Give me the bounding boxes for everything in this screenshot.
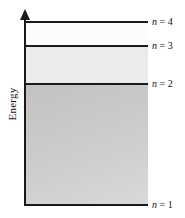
- level-label-n4: n = 4: [152, 17, 173, 27]
- band-n2-n1: [26, 85, 148, 205]
- axis-arrow-icon: [20, 9, 30, 20]
- level-line-n3: [25, 45, 148, 47]
- level-label-n2: n = 2: [152, 79, 173, 89]
- level-line-n4: [25, 21, 148, 23]
- energy-axis-label: Energy: [6, 74, 18, 134]
- level-value-n3: 3: [168, 40, 173, 51]
- level-equals-n3: =: [160, 40, 166, 51]
- level-symbol-n3: n: [152, 40, 157, 51]
- level-value-n4: 4: [168, 16, 173, 27]
- level-line-n1: [25, 204, 148, 206]
- energy-level-diagram: Energy n = 4 n = 3 n = 2 n = 1: [0, 0, 185, 218]
- level-equals-n1: =: [160, 199, 166, 210]
- level-label-n1: n = 1: [152, 200, 173, 210]
- level-equals-n4: =: [160, 16, 166, 27]
- level-value-n2: 2: [168, 78, 173, 89]
- level-value-n1: 1: [168, 199, 173, 210]
- level-symbol-n4: n: [152, 16, 157, 27]
- band-n4-n3: [26, 23, 148, 46]
- level-symbol-n1: n: [152, 199, 157, 210]
- level-equals-n2: =: [160, 78, 166, 89]
- level-label-n3: n = 3: [152, 41, 173, 51]
- band-n3-n2: [26, 47, 148, 84]
- level-symbol-n2: n: [152, 78, 157, 89]
- level-line-n2: [25, 83, 148, 85]
